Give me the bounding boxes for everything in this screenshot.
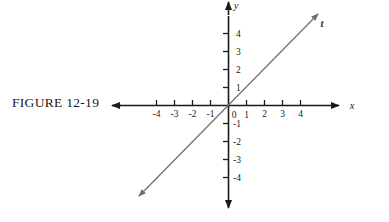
y-tick-label: -2 [233, 137, 241, 147]
y-tick-label: -3 [233, 155, 241, 165]
y-tick-label: -4 [233, 173, 241, 183]
x-tick-label: -1 [207, 109, 215, 119]
y-tick-label: -1 [233, 119, 241, 129]
line-t-lower-arrow [139, 187, 148, 196]
y-axis-label: y [233, 0, 239, 11]
figure-container: FIGURE 12-19 x y [0, 0, 389, 222]
x-tick-label: -4 [153, 109, 161, 119]
x-tick-label: -2 [189, 109, 197, 119]
y-tick-label: 4 [236, 29, 241, 39]
y-tick-label: 1 [236, 83, 241, 93]
x-axis-label: x [349, 100, 355, 111]
x-tick-label: 1 [244, 110, 249, 120]
line-t-label: t [321, 18, 325, 29]
x-tick-label: 3 [280, 109, 285, 119]
x-tick-label: 4 [298, 109, 303, 119]
y-tick-label: 2 [236, 65, 241, 75]
x-tick-label: 2 [262, 109, 267, 119]
coordinate-plane-plot: x y -4 -3 -2 -1 0 1 2 3 [0, 0, 389, 222]
y-tick-label: 3 [236, 47, 241, 57]
x-tick-label: -3 [171, 109, 179, 119]
